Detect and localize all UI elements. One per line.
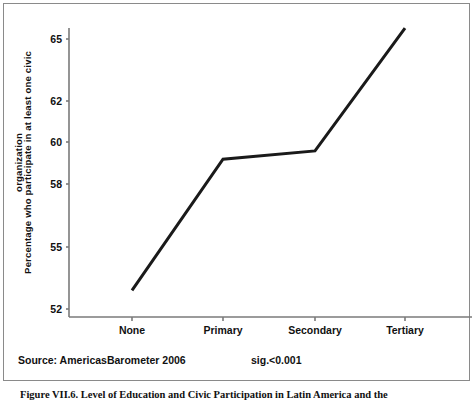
footnote-row: Source: AmericasBarometer 2006 sig.<0.00… xyxy=(18,354,458,372)
y-axis-tick-labels: 65 62 60 58 55 52 xyxy=(34,16,62,321)
x-tick-label-none: None xyxy=(119,324,145,336)
chart-canvas xyxy=(66,16,474,321)
y-tick-label: 60 xyxy=(50,136,62,148)
data-line-series xyxy=(132,28,405,290)
x-axis-tick-labels: None Primary Secondary Tertiary xyxy=(4,324,475,340)
y-tick-label: 62 xyxy=(50,95,62,107)
significance-note: sig.<0.001 xyxy=(251,354,302,366)
y-tick-label: 58 xyxy=(50,178,62,190)
x-tick-label-secondary: Secondary xyxy=(288,324,342,336)
x-tick-label-primary: Primary xyxy=(203,324,242,336)
y-tick-label: 55 xyxy=(50,241,62,253)
y-axis-title-line-2: organization xyxy=(14,133,24,192)
source-note: Source: AmericasBarometer 2006 xyxy=(18,354,186,366)
figure-frame: Percentage who participate in at least o… xyxy=(3,3,470,381)
y-tick-label: 52 xyxy=(50,303,62,315)
plot-area xyxy=(66,16,474,321)
y-axis-title-line-1: Percentage who participate in at least o… xyxy=(23,51,33,274)
x-tick-label-tertiary: Tertiary xyxy=(386,324,424,336)
y-tick-label: 65 xyxy=(50,33,62,45)
figure-caption: Figure VII.6. Level of Education and Civ… xyxy=(20,388,465,401)
